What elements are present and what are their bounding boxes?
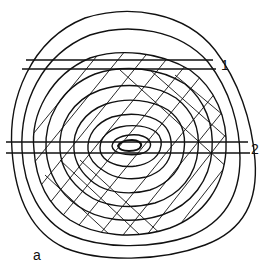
tree-ring-diagram: 1 2 a [0,0,267,268]
ring-8 [100,126,161,167]
label-band-1: 1 [221,57,229,73]
label-corner-a: a [33,247,41,263]
label-band-2: 2 [251,141,259,157]
grain-hatching [20,40,255,250]
growth-rings [12,12,256,259]
ring-5 [60,86,199,207]
ring-4 [46,69,212,221]
